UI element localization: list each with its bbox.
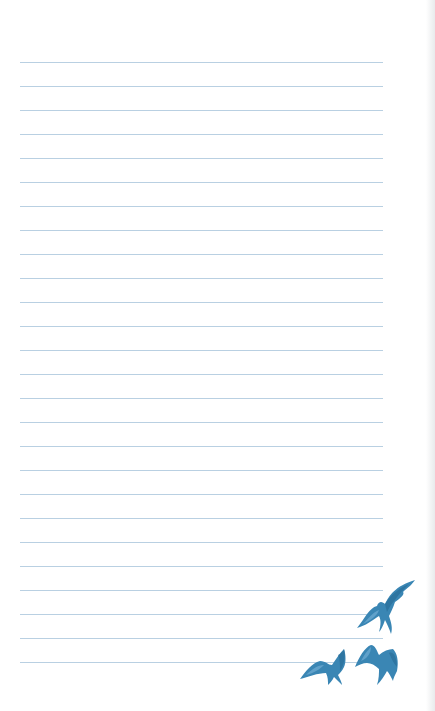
ruled-line (20, 182, 383, 183)
ruled-line (20, 398, 383, 399)
ruled-line (20, 326, 383, 327)
bird-flying-lower-left-icon (298, 645, 352, 685)
ruled-line (20, 278, 383, 279)
ruled-line (20, 230, 383, 231)
ruled-line (20, 542, 383, 543)
ruled-line (20, 590, 383, 591)
ruled-line (20, 110, 383, 111)
ruled-line (20, 614, 383, 615)
ruled-line (20, 638, 383, 639)
ruled-line (20, 518, 383, 519)
ruled-line (20, 158, 383, 159)
ruled-line (20, 206, 383, 207)
ruled-line (20, 86, 383, 87)
ruled-line (20, 62, 383, 63)
notepaper-page (0, 0, 435, 711)
ruled-line (20, 254, 383, 255)
ruled-line (20, 422, 383, 423)
ruled-line (20, 134, 383, 135)
ruled-line (20, 350, 383, 351)
ruled-line (20, 446, 383, 447)
ruled-line (20, 566, 383, 567)
ruled-line (20, 470, 383, 471)
ruled-line (20, 374, 383, 375)
ruled-line (20, 302, 383, 303)
page-edge-shadow (426, 0, 435, 711)
bird-flying-upper-icon (355, 578, 417, 634)
bird-flying-lower-right-icon (353, 643, 400, 685)
ruled-line (20, 494, 383, 495)
